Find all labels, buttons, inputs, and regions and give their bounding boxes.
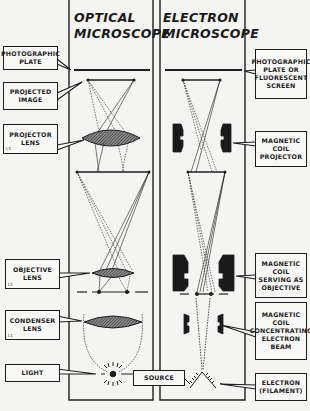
optical-column-frame	[69, 0, 153, 400]
magnetic-coil-objective-icon	[173, 255, 234, 291]
label-photographic-plate: PHOTOGRAPHIC PLATE	[3, 46, 58, 70]
label-objective-lens: OBJECTIVE LENS	[5, 259, 60, 289]
light-source-icon	[101, 362, 125, 386]
optical-rays-mid-upper	[95, 143, 128, 172]
optical-projector-lens	[82, 130, 140, 146]
optical-rays-upper	[88, 80, 134, 136]
optical-title: OPTICAL MICROSCOPE	[74, 10, 170, 42]
electron-rays-long	[188, 172, 225, 292]
label-source: SOURCE	[133, 370, 185, 386]
electron-specimen-stage	[180, 293, 228, 296]
optical-objective-lens	[92, 269, 134, 278]
label-electron-filament: ELECTRON (FILAMENT)	[255, 373, 307, 401]
label-photographic-plate-or-screen: PHOTOGRAPHIC PLATE OR FLUORESCENT SCREEN	[255, 49, 307, 99]
optical-projected-image	[86, 78, 135, 81]
electron-intermediate-image	[187, 171, 227, 174]
subscript-l3: L3	[6, 146, 11, 151]
label-magnetic-coil-condenser: MAGNETIC COIL CONCENTRATING ELECTRON BEA…	[255, 302, 307, 360]
optical-rays-long	[77, 172, 149, 270]
electron-column-frame	[160, 0, 245, 400]
label-condenser-lens: CONDENSER LENS	[5, 310, 60, 340]
label-light: LIGHT	[5, 364, 60, 382]
optical-condenser-lens	[84, 316, 142, 328]
label-magnetic-coil-objective: MAGNETIC COIL SERVING AS OBJECTIVE	[255, 253, 307, 298]
subscript-l2: L2	[8, 282, 13, 287]
label-projected-image: PROJECTED IMAGE	[3, 82, 58, 110]
left-callout-pointers	[57, 59, 96, 374]
electron-beam-rays	[196, 298, 210, 370]
electron-title: ELECTRON MICROSCOPE	[163, 10, 259, 42]
optical-rays-object	[99, 276, 130, 292]
electron-rays-upper	[183, 80, 220, 172]
optical-intermediate-image	[76, 171, 151, 174]
electron-projected-image	[181, 78, 221, 81]
electron-filament-icon	[190, 372, 216, 388]
label-magnetic-coil-projector: MAGNETIC COIL PROJECTOR	[255, 131, 307, 167]
microscope-comparison-diagram: OPTICAL MICROSCOPE ELECTRON MICROSCOPE P…	[0, 0, 310, 411]
optical-specimen-stage	[77, 291, 148, 294]
label-projector-lens: PROJECTOR LENS	[3, 124, 58, 154]
magnetic-coil-condenser-icon	[184, 314, 223, 334]
subscript-l1: L1	[8, 333, 13, 338]
